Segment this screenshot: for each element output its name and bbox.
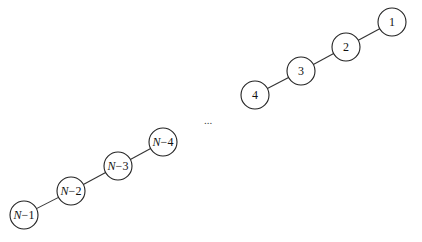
- node-label: N−1: [13, 208, 35, 222]
- node-n2: 2: [332, 33, 360, 61]
- node-label: N−4: [152, 135, 174, 149]
- chain-diagram: 1234N−4N−3N−2N−1 ...: [0, 0, 422, 242]
- node-n4: 4: [241, 81, 269, 109]
- edge-n3-n4: [267, 77, 288, 88]
- edge-nN4-nN3: [130, 149, 150, 160]
- node-n3: 3: [287, 57, 315, 85]
- diagram-canvas: 1234N−4N−3N−2N−1 ...: [0, 0, 422, 242]
- node-n1: 1: [378, 8, 406, 36]
- node-label: 2: [343, 40, 349, 54]
- node-label: N−3: [107, 159, 129, 173]
- edge-nN3-nN2: [83, 173, 105, 185]
- edge-nN2-nN1: [36, 197, 58, 208]
- node-label: 4: [252, 88, 258, 102]
- node-nN2: N−2: [57, 177, 85, 205]
- node-nN3: N−3: [104, 152, 132, 180]
- node-label: 3: [298, 64, 304, 78]
- node-label: 1: [389, 15, 395, 29]
- node-label: N−2: [60, 184, 82, 198]
- node-nN4: N−4: [149, 128, 177, 156]
- edge-n1-n2: [358, 29, 379, 41]
- node-nN1: N−1: [10, 201, 38, 229]
- ellipsis: ...: [204, 114, 213, 126]
- edge-n2-n3: [313, 54, 333, 65]
